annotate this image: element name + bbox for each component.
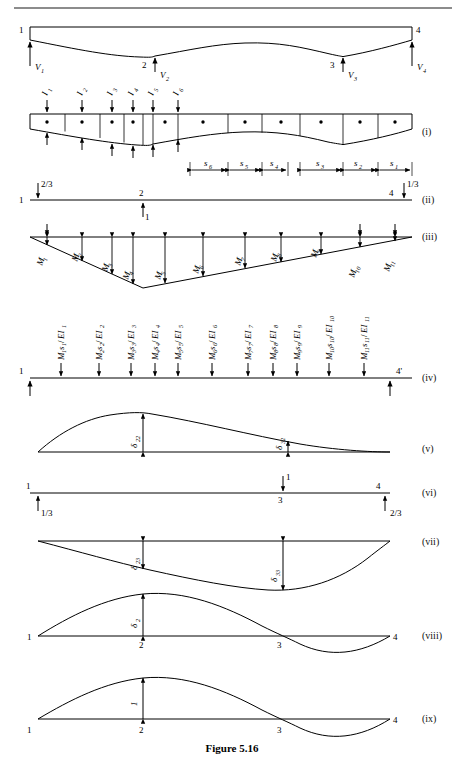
- seg-s3-base: s: [316, 158, 320, 168]
- svg-text:/: /: [324, 334, 334, 337]
- segment-centroid-dot: [80, 120, 83, 123]
- reaction-label-v1: V 1: [35, 62, 44, 74]
- inertia-label-3: I 3: [104, 86, 118, 99]
- inertia-6-sub: 6: [177, 87, 185, 93]
- d32-base: δ: [274, 445, 284, 450]
- segment-centroid-dot: [243, 120, 246, 123]
- deflection-label-d33: δ 33: [269, 570, 281, 582]
- figure-svg: 1 2 3 4 V 1 V 2 V 3 V 4: [0, 0, 464, 767]
- inertia-label-2: I 2: [74, 86, 88, 99]
- ew11-ss: 11: [363, 337, 370, 343]
- ew8-ei: EI: [268, 330, 278, 340]
- panel-viii-node-3: 3: [277, 640, 282, 650]
- elastic-weight-label-6: M 6 s 6 / EI 6: [207, 324, 218, 361]
- inertia-4-sub: 4: [132, 87, 140, 92]
- elastic-weight-label-10: M 10 s 10 / EI 10: [324, 315, 335, 361]
- panel-viii-node-1: 1: [27, 632, 32, 642]
- reaction-label-v2: V 2: [160, 70, 169, 82]
- panel-ii-node-4: 4: [389, 188, 394, 198]
- moment-7-sub: 7: [239, 256, 247, 262]
- segment-dim-s1: s 1: [390, 158, 398, 170]
- segment-centroid-dot: [45, 120, 48, 123]
- moment-label-10: M 10: [346, 263, 362, 280]
- panel-ii-node-1: 1: [19, 195, 24, 205]
- moment-8-sub: 8: [275, 252, 283, 258]
- deflection-label-unity: 1: [129, 702, 139, 707]
- ew7-ei: EI: [243, 330, 253, 340]
- svg-text:/: /: [94, 340, 104, 343]
- seg-s6-sub: 6: [209, 163, 213, 170]
- beam-node-3: 3: [330, 60, 335, 70]
- panel-label-i: (i): [422, 126, 431, 137]
- inertia-label-5: I 5: [145, 86, 159, 99]
- reaction-v3-sub: 3: [353, 75, 357, 82]
- ew9-ei: EI: [292, 330, 302, 340]
- beam-node-1: 1: [19, 25, 24, 35]
- ew5-ei: EI: [173, 330, 183, 340]
- figure-caption: Figure 5.16: [0, 742, 464, 754]
- svg-text:/: /: [173, 340, 183, 343]
- inertia-3-sub: 3: [111, 87, 119, 93]
- deflection-label-d23: δ 23: [129, 558, 141, 570]
- deflection-label-d2: δ 2: [129, 619, 141, 628]
- moment-label-1: M 1: [34, 255, 49, 269]
- inertia-5-sub: 5: [152, 87, 160, 92]
- svg-text:/: /: [243, 340, 253, 343]
- inertia-label-4: I 4: [125, 86, 139, 99]
- figure-container: 1 2 3 4 V 1 V 2 V 3 V 4: [0, 0, 464, 767]
- elastic-weight-label-8: M 8 s 8 / EI 8: [268, 324, 279, 361]
- panel-label-viii: (viii): [422, 630, 442, 641]
- panel-ii-reaction-left: 2/3: [41, 179, 53, 189]
- seg-s5-sub: 5: [245, 163, 248, 170]
- panel-viii-node-2: 2: [139, 640, 144, 650]
- ew9-eis: 9: [296, 325, 303, 328]
- segment-dim-s2: s 2: [354, 158, 362, 170]
- panel-viii-node-4: 4: [393, 632, 398, 642]
- segment-dim-s5: s 5: [240, 158, 248, 170]
- elastic-weight-label-7: M 7 s 7 / EI 7: [243, 324, 254, 361]
- panel-ix: 1 2 3 4 1: [27, 677, 398, 736]
- panel-iv: 1 4' M 1 s 1 / EI 1: [19, 315, 412, 396]
- svg-text:/: /: [56, 340, 66, 343]
- segment-centroid-dot: [319, 120, 322, 123]
- segment-centroid-dot: [163, 120, 166, 123]
- elastic-weight-label-4: M 4 s 4 / EI 4: [150, 325, 161, 361]
- seg-s2-sub: 2: [359, 163, 362, 170]
- beam-node-4: 4: [416, 25, 421, 35]
- ew1-ei: EI: [56, 330, 66, 340]
- seg-s3-sub: 3: [320, 163, 324, 170]
- panel-label-v: (v): [422, 443, 434, 454]
- panel-vi-node-1: 1: [26, 481, 31, 491]
- panel-ix-node-1: 1: [27, 725, 32, 735]
- svg-text:/: /: [359, 334, 369, 337]
- segment-centroid-dot: [131, 120, 134, 123]
- seg-s6-base: s: [204, 158, 208, 168]
- moment-label-11: M 11: [381, 258, 397, 274]
- ew6-eis: 6: [211, 324, 218, 328]
- panel-v: δ 22 δ 32: [38, 413, 390, 452]
- panel-beam: 1 2 3 4 V 1 V 2 V 3 V 4: [19, 25, 426, 82]
- d22-base: δ: [129, 443, 139, 448]
- segment-dim-s6: s 6: [204, 158, 213, 170]
- panel-ii-node-2: 2: [139, 188, 144, 198]
- svg-text:/: /: [126, 340, 136, 343]
- d23-sub: 23: [134, 558, 141, 564]
- panel-label-vi: (vi): [422, 487, 436, 498]
- ew3-ei: EI: [126, 330, 136, 340]
- ew4-eis: 4: [154, 325, 161, 328]
- d2-sub: 2: [134, 619, 141, 622]
- svg-text:/: /: [207, 340, 217, 343]
- segment-dim-s4: s 4: [270, 158, 278, 170]
- moment-11-sub: 11: [388, 260, 397, 268]
- d33-base: δ: [269, 577, 279, 582]
- panel-i: I 1 I 2 I 3 I 4 I 5 I 6: [30, 85, 412, 176]
- d33-sub: 33: [274, 570, 281, 577]
- ew10-ei: EI: [324, 324, 334, 334]
- inertia-1-sub: 1: [46, 87, 54, 92]
- panel-iv-node-1: 1: [19, 366, 24, 376]
- seg-s4-base: s: [270, 158, 274, 168]
- ew2-ei: EI: [94, 330, 104, 340]
- seg-s2-base: s: [354, 158, 358, 168]
- beam-node-2: 2: [142, 60, 147, 70]
- panel-label-ix: (ix): [422, 713, 436, 724]
